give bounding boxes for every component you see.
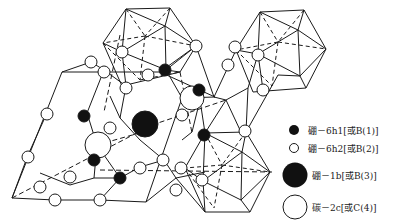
atoms-b3	[132, 111, 158, 137]
large-filled-circle-icon	[282, 162, 308, 188]
legend-label-c4: 碳－2c[或C(4)]	[312, 201, 376, 214]
legend-label-b2: 硼－6h2[或B(2)]	[308, 142, 379, 155]
large-open-circle-icon	[282, 194, 308, 220]
crystal-structure-diagram	[0, 0, 394, 223]
small-filled-circle-icon	[288, 124, 300, 136]
legend-label-b1: 硼－6h1[或B(1)]	[308, 124, 379, 137]
icosahedron-bottom-right	[185, 132, 270, 212]
legend-label-b3: 硼－1b[或B(3)]	[312, 169, 377, 182]
small-open-circle-icon	[288, 142, 300, 154]
icosahedron-top-right	[236, 10, 326, 92]
